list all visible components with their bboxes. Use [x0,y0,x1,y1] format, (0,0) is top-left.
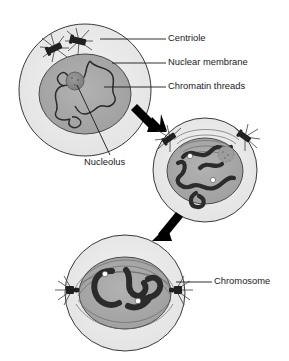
cell-early-prophase [19,24,151,156]
label-chromosome: Chromosome [214,275,270,286]
diagram-canvas: Centriole Nuclear membrane Chromatin thr… [0,0,289,361]
nuclear-membrane [39,54,131,134]
cell-division-diagram: Centriole Nuclear membrane Chromatin thr… [0,0,289,361]
nucleolus [66,72,84,90]
label-nuclear-membrane: Nuclear membrane [168,56,248,67]
label-nucleolus: Nucleolus [84,156,125,167]
centromere [210,177,215,182]
centromere [135,298,141,304]
nucleolus-remnant [218,146,234,162]
label-chromatin-threads: Chromatin threads [168,80,245,91]
label-centriole: Centriole [168,32,206,43]
centromere [102,271,108,277]
centromere [187,153,192,158]
